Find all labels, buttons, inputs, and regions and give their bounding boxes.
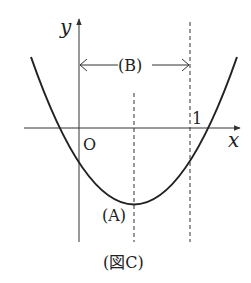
x-axis-label: x	[228, 128, 239, 152]
interval-label-b: (B)	[118, 56, 142, 75]
y-axis-label: y	[59, 15, 72, 39]
parabola-diagram: y x O 1 (B) (A) (図C)	[0, 0, 251, 283]
figure-caption: (図C)	[103, 253, 144, 272]
vertex-label-a: (A)	[102, 206, 126, 225]
tick-label-one: 1	[192, 109, 202, 128]
origin-label: O	[83, 135, 96, 154]
